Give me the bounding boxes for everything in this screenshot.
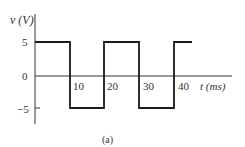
x-tick-label-10: 10 bbox=[73, 80, 85, 92]
y-tick-label-neg5: −5 bbox=[17, 103, 29, 115]
x-axis-label: t (ms) bbox=[200, 80, 226, 93]
y-axis-label: v (V) bbox=[10, 13, 34, 27]
y-tick-label-0: 0 bbox=[22, 70, 28, 82]
x-tick-label-30: 30 bbox=[143, 80, 155, 92]
x-tick-label-40: 40 bbox=[178, 80, 190, 92]
square-wave-chart: v (V) 5 0 −5 10 20 30 40 t (ms) (a) bbox=[0, 0, 245, 147]
square-wave-trace bbox=[35, 42, 192, 108]
y-tick-label-5: 5 bbox=[22, 36, 28, 48]
x-tick-label-20: 20 bbox=[107, 80, 119, 92]
figure-caption: (a) bbox=[102, 134, 113, 146]
